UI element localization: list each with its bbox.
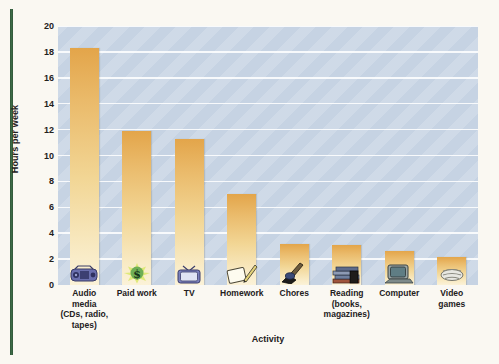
x-axis-tick-labels: Audiomedia(CDs, radio,tapes)Paid workTVH… — [58, 288, 478, 330]
dollar-sign-icon: $ — [120, 262, 154, 284]
x-axis-tick-label: Computer — [373, 288, 426, 299]
y-axis-tick-label: 6 — [49, 202, 54, 212]
y-axis-tick-label: 0 — [49, 280, 54, 290]
bar — [332, 245, 361, 285]
y-axis-tick-label: 8 — [49, 176, 54, 186]
y-axis-tick-label: 10 — [44, 151, 54, 161]
bar-chart-figure: $ 02468101214161820 Hours per week Audio… — [0, 0, 499, 364]
x-axis-tick-label-line: (CDs, radio, — [59, 309, 110, 320]
bar — [385, 251, 414, 285]
x-axis-tick-label-line: Homework — [220, 288, 263, 298]
bar-slot — [216, 26, 269, 285]
bar-slot — [426, 26, 479, 285]
game-controller-icon — [435, 262, 469, 284]
x-axis-tick-label: Homework — [216, 288, 269, 299]
x-axis-tick-label: Audiomedia(CDs, radio,tapes) — [58, 288, 111, 330]
boombox-icon — [67, 262, 101, 284]
y-axis-tick-label: 4 — [49, 228, 54, 238]
x-axis-tick-label-line: Audio — [72, 288, 96, 298]
x-axis-tick-label: Video games — [426, 288, 479, 309]
x-axis-tick-label-line: Video games — [438, 288, 465, 309]
y-axis-tick-label: 20 — [44, 21, 54, 31]
bar — [437, 257, 466, 285]
y-axis-tick-label: 12 — [44, 125, 54, 135]
x-axis-tick-label-line: (books, — [322, 299, 373, 310]
x-axis-tick-label: Reading(books,magazines) — [321, 288, 374, 320]
plot-area: $ — [58, 26, 478, 285]
notebook-pencil-icon — [225, 262, 259, 284]
television-icon — [172, 262, 206, 284]
bar-slot — [373, 26, 426, 285]
x-axis-tick-label: Paid work — [111, 288, 164, 299]
x-axis-tick-label-line: Paid work — [117, 288, 157, 298]
y-axis-tick-label: 16 — [44, 73, 54, 83]
bar — [227, 194, 256, 285]
y-axis-tick-label: 14 — [44, 99, 54, 109]
x-axis-tick-label-line: Reading — [330, 288, 364, 298]
x-axis-tick-label: Chores — [268, 288, 321, 299]
desktop-computer-icon — [382, 262, 416, 284]
x-axis-tick-label-line: TV — [184, 288, 195, 298]
y-axis-tick-label: 2 — [49, 254, 54, 264]
bar-slot — [163, 26, 216, 285]
x-axis-tick-label-line: magazines) — [322, 309, 373, 320]
broom-icon — [277, 262, 311, 284]
stack-of-books-icon — [330, 262, 364, 284]
x-axis-tick-label-line: tapes) — [59, 320, 110, 331]
x-axis-tick-label-line: Chores — [280, 288, 309, 298]
bar-slot: $ — [111, 26, 164, 285]
bars-group: $ — [58, 26, 478, 285]
bar — [175, 139, 204, 285]
bar-slot — [58, 26, 111, 285]
bar — [70, 48, 99, 285]
x-axis-title: Activity — [58, 334, 478, 344]
x-axis-tick-label: TV — [163, 288, 216, 299]
bar-slot — [321, 26, 374, 285]
bar-slot — [268, 26, 321, 285]
x-axis-tick-label-line: media — [59, 299, 110, 310]
bar — [280, 244, 309, 285]
svg-text:$: $ — [133, 268, 141, 281]
x-axis-tick-label-line: Computer — [379, 288, 419, 298]
y-axis-title: Hours per week — [10, 91, 20, 187]
bar: $ — [122, 131, 151, 285]
y-axis-tick-labels: 02468101214161820 — [30, 26, 54, 285]
y-axis-tick-label: 18 — [44, 47, 54, 57]
